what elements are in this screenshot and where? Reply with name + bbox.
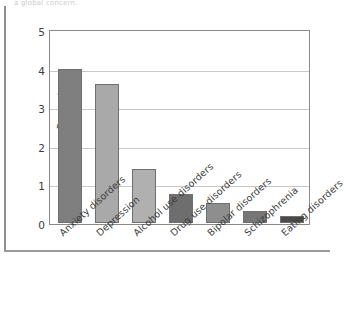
x-axis-tick-labels: Anxiety disordersDepressionAlcohol use d…: [49, 226, 310, 326]
bar: [58, 69, 82, 223]
y-tick-0: 0: [38, 219, 45, 231]
y-tick-2: 2: [38, 142, 45, 154]
y-tick-4: 4: [38, 65, 45, 77]
y-tick-1: 1: [38, 180, 45, 192]
y-tick-5: 5: [38, 26, 45, 38]
y-tick-3: 3: [38, 103, 45, 115]
